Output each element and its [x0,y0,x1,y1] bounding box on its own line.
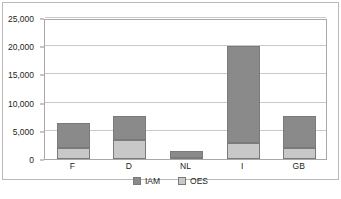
bar-group [57,123,90,159]
legend-item: OES [178,177,208,186]
x-axis-tick-label: GB [293,162,305,171]
x-axis-tick-label: D [126,162,132,171]
bar-segment-iam [170,151,203,159]
legend-label: OES [190,177,208,186]
plot-area [44,19,327,160]
chart-container: 05,00010,00015,00020,00025,000 FDNLIGB I… [0,0,341,199]
y-axis-tick-label: 10,000 [0,99,40,108]
y-axis-tick-label: 15,000 [0,71,40,80]
x-axis-tick-label: I [241,162,243,171]
bar-segment-iam [283,116,316,148]
bar-group [227,46,260,159]
bar-group [283,116,316,159]
bar-segment-oes [227,143,260,159]
x-axis-tick-label: F [70,162,75,171]
chart-legend: IAMOES [0,177,341,186]
bars-layer [45,20,326,159]
legend-label: IAM [145,177,160,186]
y-axis-tick-label: 0 [0,156,40,165]
legend-swatch-icon [133,177,141,185]
y-axis-tick-label: 5,000 [0,128,40,137]
legend-item: IAM [133,177,160,186]
bar-segment-oes [283,148,316,159]
bar-segment-oes [113,140,146,159]
bar-segment-iam [57,123,90,148]
bar-segment-iam [227,46,260,143]
bar-group [170,151,203,159]
x-axis: FDNLIGB [44,162,327,176]
gridline [45,17,326,18]
legend-swatch-icon [178,177,186,185]
y-axis: 05,00010,00015,00020,00025,000 [0,19,40,160]
bar-segment-oes [57,148,90,159]
bar-segment-iam [113,116,146,140]
y-axis-tick-label: 20,000 [0,43,40,52]
x-axis-tick-label: NL [180,162,191,171]
bar-group [113,116,146,159]
y-axis-tick-label: 25,000 [0,15,40,24]
